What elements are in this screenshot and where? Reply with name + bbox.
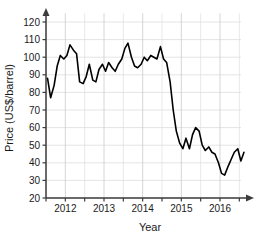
- y-tick-label: 50: [29, 140, 41, 151]
- y-tick-label: 90: [29, 69, 41, 80]
- y-tick-label: 20: [29, 193, 41, 204]
- y-tick-label: 100: [23, 52, 40, 63]
- y-tick-label: 70: [29, 105, 41, 116]
- x-tick-label: 2016: [209, 203, 232, 214]
- y-tick-label: 40: [29, 157, 41, 168]
- y-tick-label: 110: [24, 34, 40, 45]
- x-axis-title: Year: [139, 221, 162, 233]
- x-tick-label: 2014: [132, 203, 155, 214]
- oil-price-line-chart: 2030405060708090100110120 20122013201420…: [0, 0, 258, 237]
- y-tick-label: 80: [29, 87, 41, 98]
- y-tick-label: 120: [23, 17, 40, 28]
- x-tick-label: 2015: [170, 203, 193, 214]
- chart-canvas: 2030405060708090100110120 20122013201420…: [0, 0, 258, 237]
- y-tick-label: 30: [29, 175, 41, 186]
- y-tick-label: 60: [29, 122, 41, 133]
- x-tick-label: 2012: [54, 203, 77, 214]
- y-axis-title: Price (US$/barrel): [3, 64, 15, 152]
- x-tick-label: 2013: [93, 203, 116, 214]
